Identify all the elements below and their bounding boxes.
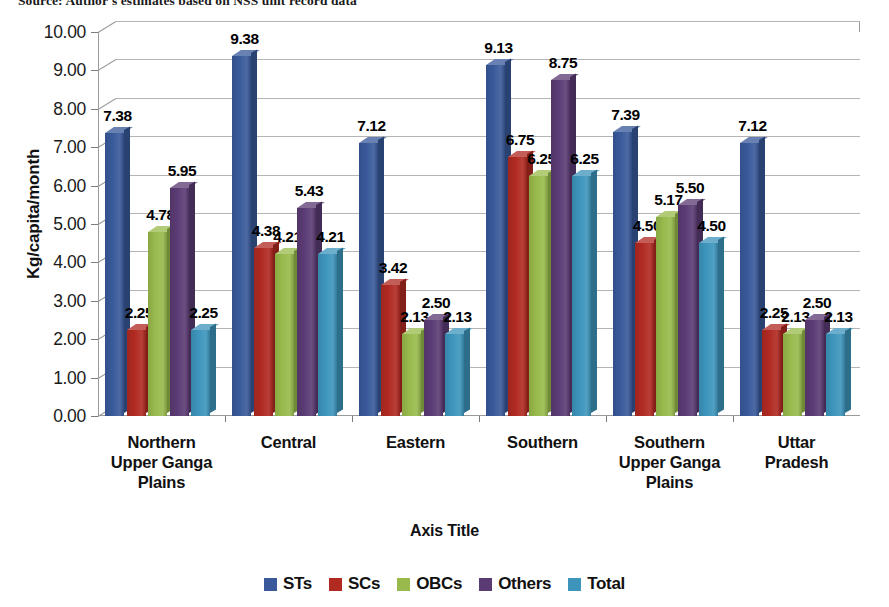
bar-obcs-3[interactable] [529,176,548,416]
bar-face [381,285,400,416]
legend-item-obcs[interactable]: OBCs [397,574,462,594]
bar-face [826,334,845,416]
bar-face [297,208,316,417]
data-label: 7.12 [738,117,767,135]
bar-side [845,328,851,413]
legend-item-others[interactable]: Others [479,574,551,594]
bar-face [359,143,378,416]
data-label: 9.38 [230,30,259,48]
bar-obcs-2[interactable] [402,334,421,416]
x-label-4: SouthernUpper GangaPlains [606,432,733,492]
data-label: 2.25 [189,304,218,322]
bar-sts-4[interactable] [613,132,632,416]
bar-group: 9.384.384.215.434.21 [225,32,352,416]
bar-sts-1[interactable] [232,56,251,416]
x-label-line: Central [225,432,352,452]
bar-face [572,176,591,416]
x-label-line: Northern [98,432,225,452]
bar-others-0[interactable] [170,188,189,416]
bar-group: 7.122.252.132.502.13 [733,32,860,416]
x-label-line: Pradesh [733,452,860,472]
y-tickmark [91,70,98,71]
bar-others-5[interactable] [805,320,824,416]
bar-face [254,248,273,416]
bar-scs-4[interactable] [635,243,654,416]
bar-face [105,133,124,416]
bar-obcs-4[interactable] [656,217,675,416]
legend-item-sts[interactable]: STs [264,574,312,594]
x-tickmark [352,416,353,422]
bar-others-3[interactable] [551,80,570,416]
bar-obcs-0[interactable] [148,232,167,416]
bar-scs-3[interactable] [508,157,527,416]
x-tickmark [225,416,226,422]
data-label: 5.43 [295,182,324,200]
bar-scs-0[interactable] [127,330,146,416]
bar-others-1[interactable] [297,208,316,417]
legend-swatch-icon [568,578,581,591]
legend-label: Others [498,574,551,594]
bar-total-5[interactable] [826,334,845,416]
data-label: 4.50 [697,217,726,235]
bar-face [635,243,654,416]
data-label: 2.13 [443,308,472,326]
bar-face [678,205,697,416]
bar-total-2[interactable] [445,334,464,416]
bar-obcs-5[interactable] [783,334,802,416]
bar-group: 7.394.505.175.504.50 [606,32,733,416]
bar-face [805,320,824,416]
plot-area: 7.382.254.785.952.259.384.384.215.434.21… [98,32,860,416]
y-tick-2.00: 2.00 [12,329,86,350]
bar-face [232,56,251,416]
bar-face [551,80,570,416]
y-tick-1.00: 1.00 [12,367,86,388]
bar-sts-0[interactable] [105,133,124,416]
x-label-line: Upper Ganga [606,452,733,472]
bar-sts-5[interactable] [740,143,759,416]
bar-face [699,243,718,416]
bar-scs-5[interactable] [762,330,781,416]
x-tickmark [733,416,734,422]
legend-swatch-icon [479,578,492,591]
bar-sts-3[interactable] [486,65,505,416]
bar-total-4[interactable] [699,243,718,416]
y-tick-0.00: 0.00 [12,406,86,427]
bar-group: 7.123.422.132.502.13 [352,32,479,416]
x-axis-tick-labels: NorthernUpper GangaPlainsCentralEasternS… [98,432,878,522]
bar-face [445,334,464,416]
y-tick-3.00: 3.00 [12,290,86,311]
bar-side [464,328,470,413]
bar-face [613,132,632,416]
y-tick-4.00: 4.00 [12,252,86,273]
x-label-line: Uttar [733,432,860,452]
legend-item-scs[interactable]: SCs [329,574,380,594]
x-label-line: Southern [606,432,733,452]
bar-total-0[interactable] [191,330,210,416]
legend-label: Total [587,574,625,594]
bar-total-3[interactable] [572,176,591,416]
data-label: 7.38 [103,107,132,125]
bar-face [402,334,421,416]
bar-scs-2[interactable] [381,285,400,416]
bar-total-1[interactable] [318,254,337,416]
bar-obcs-1[interactable] [275,254,294,416]
bar-face [529,176,548,416]
bar-face [783,334,802,416]
legend-label: STs [283,574,312,594]
legend-item-total[interactable]: Total [568,574,625,594]
bar-side [210,323,216,413]
bar-others-2[interactable] [424,320,443,416]
x-label-2: Eastern [352,432,479,452]
bar-face [486,65,505,416]
y-tick-10.00: 10.00 [12,22,86,43]
bar-scs-1[interactable] [254,248,273,416]
bar-face [318,254,337,416]
data-label: 5.95 [168,162,197,180]
bar-sts-2[interactable] [359,143,378,416]
x-label-0: NorthernUpper GangaPlains [98,432,225,492]
data-label: 8.75 [549,54,578,72]
x-label-line: Plains [606,472,733,492]
bar-side [718,237,724,413]
legend-swatch-icon [329,578,342,591]
bar-others-4[interactable] [678,205,697,416]
